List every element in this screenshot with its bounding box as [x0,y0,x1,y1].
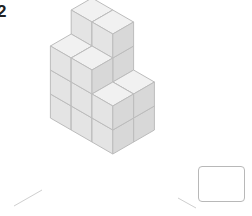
axis-line [14,190,42,206]
axis-line [178,198,196,208]
answer-input-box[interactable] [198,166,245,202]
